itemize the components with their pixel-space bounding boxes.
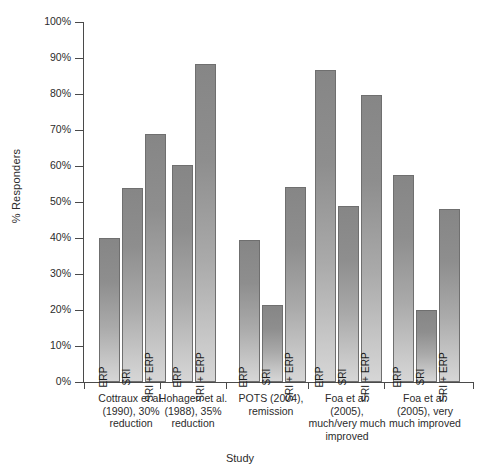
y-axis-title: % Responders xyxy=(10,126,22,246)
y-tick: 100% xyxy=(75,22,84,23)
group-caption-line: Foa et al. xyxy=(371,392,479,405)
y-tick: 60% xyxy=(75,166,84,167)
y-tick: 80% xyxy=(75,94,84,95)
bar-group: ERPSRISRI + ERP xyxy=(312,22,384,382)
bar[interactable]: ERP xyxy=(99,238,120,382)
x-tick xyxy=(308,382,309,389)
y-tick-label: 60% xyxy=(50,159,71,171)
y-tick-label: 40% xyxy=(50,231,71,243)
bar-label: ERP xyxy=(392,367,403,388)
bar[interactable]: ERP xyxy=(172,165,193,382)
x-tick xyxy=(226,382,227,389)
bar[interactable]: SRI + ERP xyxy=(145,134,166,382)
x-tick xyxy=(160,382,161,389)
bar[interactable]: SRI + ERP xyxy=(439,209,460,382)
y-tick-label: 100% xyxy=(44,15,71,27)
bar[interactable]: SRI xyxy=(416,310,437,382)
bar[interactable]: ERP xyxy=(315,70,336,382)
y-tick-label: 70% xyxy=(50,123,71,135)
bar-label: SRI xyxy=(121,369,132,386)
plot-area: 100%90%80%70%60%50%40%30%20%10%0% ERPSRI… xyxy=(83,22,473,383)
bar-group: ERPSRISRI + ERP xyxy=(98,22,166,382)
bar[interactable]: SRI xyxy=(122,188,143,382)
y-tick: 20% xyxy=(75,310,84,311)
y-tick: 30% xyxy=(75,274,84,275)
y-tick-label: 50% xyxy=(50,195,71,207)
bar-label: ERP xyxy=(172,367,183,388)
bar-group: ERPSRISRI + ERP xyxy=(236,22,308,382)
bar[interactable]: SRI + ERP xyxy=(285,187,306,382)
bar-label: ERP xyxy=(238,367,249,388)
bar[interactable]: ERP xyxy=(393,175,414,382)
y-tick-label: 0% xyxy=(56,375,71,387)
bar[interactable]: SRI + ERP xyxy=(195,64,216,382)
bar-label: SRI xyxy=(337,369,348,386)
bar-group: ERPSRI + ERP xyxy=(166,22,222,382)
bar[interactable]: SRI xyxy=(338,206,359,382)
y-tick-label: 20% xyxy=(50,303,71,315)
bar-label: ERP xyxy=(98,367,109,388)
bar[interactable]: SRI + ERP xyxy=(361,95,382,382)
group-caption: Foa et al.(2005), verymuch improved xyxy=(371,392,479,430)
bar-chart: % Responders 100%90%80%70%60%50%40%30%20… xyxy=(0,0,480,473)
bar-label: SRI xyxy=(261,369,272,386)
group-caption-line: (2005), very xyxy=(371,405,479,418)
bar[interactable]: SRI xyxy=(262,305,283,382)
y-tick: 0% xyxy=(75,382,84,383)
x-tick xyxy=(473,382,474,389)
bar-groups: ERPSRISRI + ERPERPSRI + ERPERPSRISRI + E… xyxy=(84,22,473,382)
bar-label: SRI xyxy=(415,369,426,386)
y-tick: 50% xyxy=(75,202,84,203)
bar-label: ERP xyxy=(314,367,325,388)
y-tick-label: 80% xyxy=(50,87,71,99)
group-caption-line: much improved xyxy=(371,417,479,430)
x-axis-title: Study xyxy=(0,452,480,464)
group-caption-line: improved xyxy=(293,430,401,443)
y-tick: 70% xyxy=(75,130,84,131)
y-tick-label: 30% xyxy=(50,267,71,279)
y-tick: 90% xyxy=(75,58,84,59)
y-tick: 10% xyxy=(75,346,84,347)
y-tick-label: 90% xyxy=(50,51,71,63)
bar[interactable]: ERP xyxy=(239,240,260,382)
x-tick xyxy=(384,382,385,389)
y-tick-label: 10% xyxy=(50,339,71,351)
y-tick: 40% xyxy=(75,238,84,239)
bar-group: ERPSRISRI + ERP xyxy=(390,22,462,382)
group-caption-line: reduction xyxy=(147,417,239,430)
x-tick xyxy=(84,382,85,389)
